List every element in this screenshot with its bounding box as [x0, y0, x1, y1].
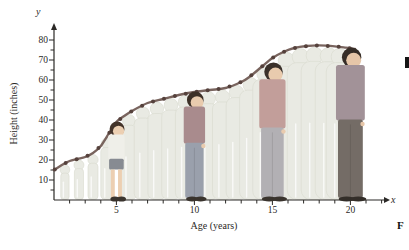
x-tick-label: 20 — [340, 205, 360, 215]
x-axis-letter: x — [391, 195, 395, 205]
x-tick-label: 10 — [184, 205, 204, 215]
x-tick-label: 5 — [106, 205, 126, 215]
curve-point — [217, 87, 221, 91]
ghost-figure — [88, 155, 98, 200]
y-tick-label: 80 — [29, 35, 48, 45]
curve-point — [271, 56, 275, 60]
ghost-crowd — [60, 47, 353, 199]
ghost-figure — [74, 160, 84, 199]
curve-point — [140, 104, 144, 108]
curve-point — [228, 85, 232, 89]
curve-point — [75, 157, 79, 161]
curve-point — [238, 80, 242, 84]
y-axis-letter: y — [36, 7, 40, 17]
ghost-figure — [60, 165, 70, 200]
curve-point — [249, 73, 253, 77]
curve-point — [260, 64, 264, 68]
y-tick-label: 20 — [29, 155, 48, 165]
curve-point — [162, 97, 166, 101]
curve-point — [118, 117, 122, 121]
curve-point — [337, 45, 341, 49]
curve-point — [129, 110, 133, 114]
curve-point — [173, 94, 177, 98]
curve-point — [282, 50, 286, 54]
curve-point — [96, 146, 100, 150]
curve-point — [184, 92, 188, 96]
cropped-caption-glyph: F — [397, 219, 404, 231]
curve-point — [206, 88, 210, 92]
curve-point — [64, 161, 68, 165]
y-tick-label: 10 — [29, 175, 48, 185]
curve-point — [151, 100, 155, 104]
y-tick-label: 30 — [29, 135, 48, 145]
curve-point — [53, 168, 57, 172]
y-tick-label: 60 — [29, 75, 48, 85]
curve-point — [304, 44, 308, 48]
person-boy-age-10 — [184, 92, 207, 202]
curve-point — [326, 44, 330, 48]
y-tick-label: 50 — [29, 95, 48, 105]
x-axis-title: Age (years) — [154, 220, 274, 231]
curve-point — [315, 44, 319, 48]
y-tick-label: 70 — [29, 55, 48, 65]
growth-chart-figure: Height (inches) Age (years) y x 10203040… — [0, 0, 409, 250]
y-tick-label: 40 — [29, 115, 48, 125]
curve-point — [86, 154, 90, 158]
person-man-age-20 — [336, 48, 366, 202]
person-teen-age-15 — [259, 63, 287, 202]
y-axis-title: Height (inches) — [8, 54, 19, 174]
page-edge-mark — [405, 57, 409, 68]
x-tick-label: 15 — [262, 205, 282, 215]
curve-point — [293, 46, 297, 50]
